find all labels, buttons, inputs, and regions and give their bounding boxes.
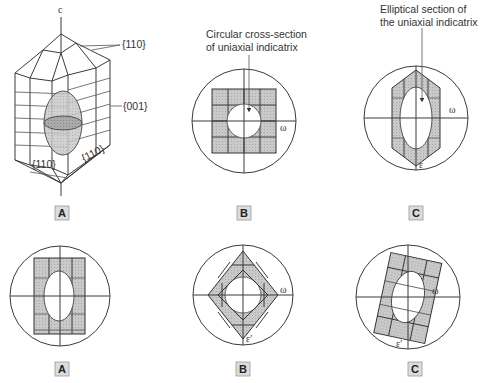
face-label-110-right: {110} [79, 142, 106, 164]
omega-label: ω [280, 284, 287, 295]
svg-text:C: C [412, 207, 420, 219]
face-label-001: {001} [123, 100, 148, 112]
panel-b-caption-line1: Circular cross-section [206, 28, 307, 40]
panel-c-top-section [364, 28, 468, 170]
omega-label: ω [432, 285, 439, 296]
face-label-110-top: {110} [122, 38, 146, 50]
panel-label-b-bottom: B [236, 362, 250, 376]
panel-label-a-top: A [55, 206, 69, 220]
panel-label-a-bottom: A [55, 362, 69, 376]
panel-a-bottom-section [10, 246, 110, 346]
indicatrix-diagram: c {110} {001} {110} {110} Circular cross… [0, 0, 484, 383]
omega-label: ω [449, 104, 456, 115]
panel-b-top-section [192, 55, 296, 173]
omega-label: ω [280, 122, 287, 133]
epsilon-prime-label: ε′ [246, 333, 252, 344]
svg-text:B: B [239, 363, 247, 375]
panel-c-caption-line2: the uniaxial indicatrix [380, 16, 478, 28]
panel-b-caption-line2: of uniaxial indicatrix [206, 41, 298, 53]
c-axis-label: c [58, 4, 63, 15]
face-label-110-left: {110} [32, 158, 56, 170]
panel-label-b-top: B [237, 206, 251, 220]
panel-label-c-bottom: C [408, 362, 422, 376]
epsilon-prime-label: ε′ [396, 338, 402, 349]
panel-label-c-top: C [409, 206, 423, 220]
svg-text:C: C [411, 363, 419, 375]
panel-b-bottom-section [193, 245, 293, 345]
epsilon-label: ε [419, 159, 423, 170]
svg-text:A: A [58, 363, 66, 375]
svg-text:A: A [58, 207, 66, 219]
panel-c-caption-line1: Elliptical section of [380, 3, 466, 15]
svg-text:B: B [240, 207, 248, 219]
panel-c-bottom-section [356, 245, 460, 349]
